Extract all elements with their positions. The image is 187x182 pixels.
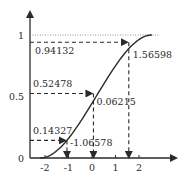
probability-label: 0.52478 bbox=[33, 78, 72, 89]
mapping-arrows: 0.14327-1.065780.524780.062150.941321.56… bbox=[30, 42, 172, 157]
x-tick-label: -1 bbox=[64, 162, 73, 173]
y-tick-label: 1 bbox=[18, 30, 24, 41]
quantile-label: -1.06578 bbox=[70, 137, 113, 148]
y-tick-label: 0 bbox=[18, 153, 24, 164]
x-tick-label: 0 bbox=[89, 162, 95, 173]
x-tick-label: 1 bbox=[112, 162, 118, 173]
quantile-label: 0.06215 bbox=[96, 96, 135, 107]
y-tick-label: 0.5 bbox=[9, 91, 24, 102]
probability-label: 0.14327 bbox=[33, 125, 72, 136]
x-tick-label: -2 bbox=[40, 162, 49, 173]
probability-label: 0.94132 bbox=[35, 45, 74, 56]
quantile-label: 1.56598 bbox=[133, 49, 172, 60]
x-tick-label: 2 bbox=[136, 162, 142, 173]
inverse-cdf-chart: 0.14327-1.065780.524780.062150.941321.56… bbox=[0, 0, 187, 182]
